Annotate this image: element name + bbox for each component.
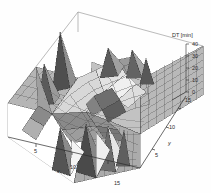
x-tick-label-15: 15	[114, 180, 120, 186]
z-tick-label-20: 20	[192, 65, 198, 71]
y-tick-label-15: 15	[185, 97, 191, 103]
z-tick-label-0: 0	[192, 89, 195, 95]
y-tick-label-5: 5	[155, 152, 158, 158]
x-tick-label-10: 10	[70, 164, 76, 170]
y-tick-label-10: 10	[169, 124, 175, 130]
surface-plot-figure: DT [min] 40 30 20 10 0 15 10 5 y 5 10 15…	[0, 0, 211, 193]
surface-3d-canvas	[0, 0, 211, 193]
z-tick-label-10: 10	[192, 77, 198, 83]
z-tick-label-40: 40	[192, 41, 198, 47]
surface-mesh	[8, 32, 203, 183]
x-axis-label: x	[57, 168, 60, 174]
x-tick-label-5: 5	[34, 148, 37, 154]
z-tick-label-30: 30	[192, 53, 198, 59]
legend-title: DT [min]	[172, 32, 193, 38]
y-axis-label: y	[168, 140, 171, 146]
